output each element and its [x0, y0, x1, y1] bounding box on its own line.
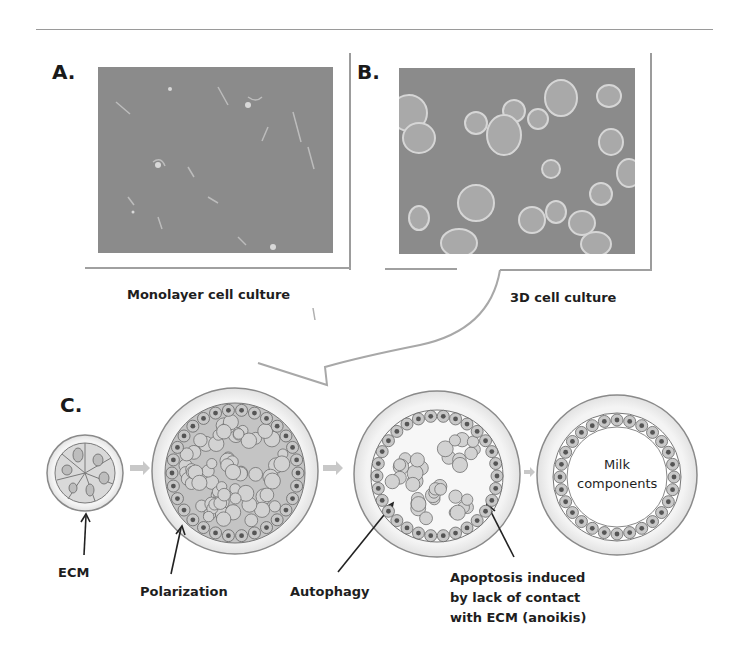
- label-apoptosis-line-3: with ECM (anoikis): [450, 608, 586, 628]
- label-polarization: Polarization: [140, 582, 228, 602]
- acinus-development-diagram: [0, 0, 742, 666]
- label-apoptosis: Apoptosis induced by lack of contact wit…: [450, 568, 586, 628]
- milk-line-1: Milk: [577, 455, 657, 474]
- label-ecm: ECM: [58, 563, 89, 583]
- arrow-right-icon: [323, 461, 343, 475]
- stage-small-acinus: [47, 435, 123, 511]
- label-autophagy: Autophagy: [290, 582, 370, 602]
- milk-line-2: components: [577, 474, 657, 493]
- arrow-right-icon: [130, 461, 150, 475]
- label-milk-components: Milk components: [577, 455, 657, 493]
- arrow-right-icon: [524, 467, 535, 477]
- label-apoptosis-line-2: by lack of contact: [450, 588, 586, 608]
- label-apoptosis-line-1: Apoptosis induced: [450, 568, 586, 588]
